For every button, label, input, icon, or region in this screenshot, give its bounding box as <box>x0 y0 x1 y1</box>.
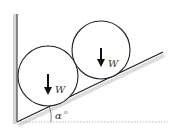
angle-degree-mark: o <box>64 108 68 115</box>
inclined-plane-diagram: W W α o <box>0 0 176 132</box>
angle-label: α <box>55 110 62 121</box>
diagram-canvas: W W α o <box>0 0 176 132</box>
right-weight-label: W <box>108 58 119 69</box>
left-weight-label: W <box>55 84 66 95</box>
